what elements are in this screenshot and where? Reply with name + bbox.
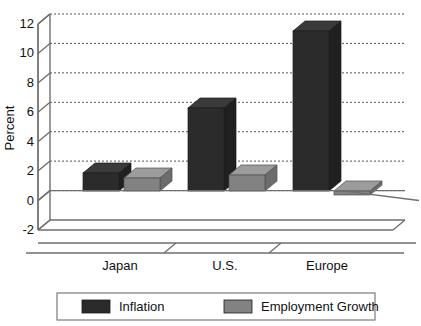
x-tick-label-us: U.S. (212, 258, 237, 273)
x-tick-label-europe: Europe (306, 258, 348, 273)
y-tick-label-neg2: -2 (22, 222, 34, 237)
bar-us-employment-growth[interactable] (229, 165, 277, 191)
y-tick-label-8: 8 (27, 75, 34, 90)
legend-label-inflation: Inflation (119, 299, 165, 314)
y-tick-label-12: 12 (20, 16, 34, 31)
y-tick-label-6: 6 (27, 104, 34, 119)
chart-figure: 12 10 8 6 4 2 0 -2 Percent (0, 0, 421, 326)
y-tick-label-2: 2 (27, 163, 34, 178)
legend-swatch-inflation (82, 300, 110, 313)
x-tick-label-japan: Japan (102, 258, 137, 273)
y-tick-label-0: 0 (27, 193, 34, 208)
legend-label-employment-growth: Employment Growth (261, 299, 379, 314)
y-tick-label-10: 10 (20, 45, 34, 60)
y-tick-label-4: 4 (27, 134, 34, 149)
legend-entry-inflation[interactable]: Inflation (82, 299, 165, 314)
bar-europe-inflation[interactable] (293, 21, 341, 191)
legend-entry-employment-growth[interactable]: Employment Growth (224, 299, 379, 314)
bar-chart-svg: 12 10 8 6 4 2 0 -2 Percent (0, 0, 421, 326)
plot-left-wall (38, 14, 50, 230)
legend-swatch-employment-growth (224, 300, 252, 313)
plot-floor (38, 220, 417, 230)
y-axis-title: Percent (2, 105, 17, 150)
legend: Inflation Employment Growth (57, 293, 379, 320)
